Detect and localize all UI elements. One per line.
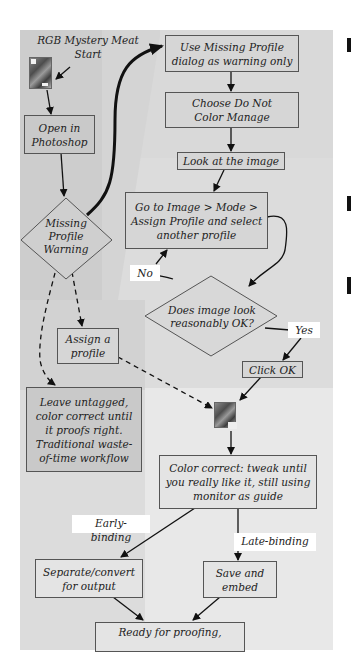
edge-label-yes: Yes	[288, 322, 320, 338]
node-separate-convert: Separate/convert for output	[35, 559, 143, 598]
edge-label-late-binding: Late-binding	[234, 533, 316, 551]
edge-label-no: No	[130, 265, 160, 281]
edge-label-early-binding: Early-binding	[72, 515, 150, 533]
node-assign-profile: Assign a profile	[57, 328, 119, 364]
node-image-ok-decision: Does image look reasonably OK?	[160, 304, 264, 330]
node-do-not-color-manage: Choose Do Not Color Manage	[165, 92, 299, 128]
node-leave-untagged: Leave untagged, color correct until it p…	[26, 387, 142, 472]
node-missing-profile-warning: Missing Profile Warning	[26, 217, 106, 256]
node-assign-other-profile: Go to Image > Mode > Assign Profile and …	[125, 192, 268, 249]
node-open-photoshop: Open in Photoshop	[24, 115, 95, 154]
node-use-dialog-warning: Use Missing Profile dialog as warning on…	[165, 35, 299, 72]
node-click-ok: Click OK	[242, 361, 303, 378]
node-ready-proofing: Ready for proofing,	[95, 622, 245, 652]
image-thumbnail-icon	[29, 57, 52, 89]
node-save-embed: Save and embed	[203, 561, 277, 598]
tagged-image-thumbnail-icon	[214, 402, 236, 428]
node-look-at-image: Look at the image	[177, 152, 285, 170]
node-color-correct: Color correct: tweak until you really li…	[159, 455, 317, 509]
